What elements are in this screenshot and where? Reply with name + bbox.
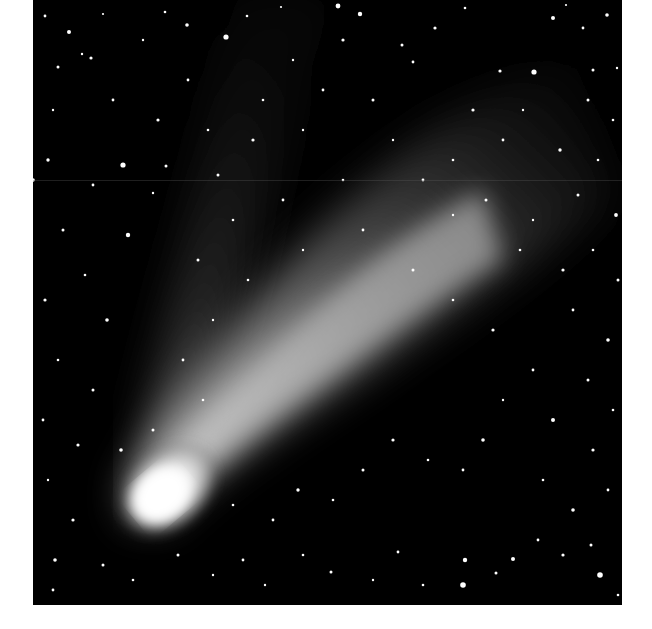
- comet-scene: [33, 0, 622, 605]
- comet-photograph: Black-and-white astrophotograph of a com…: [33, 0, 622, 605]
- scan-artifact-line: [33, 180, 622, 181]
